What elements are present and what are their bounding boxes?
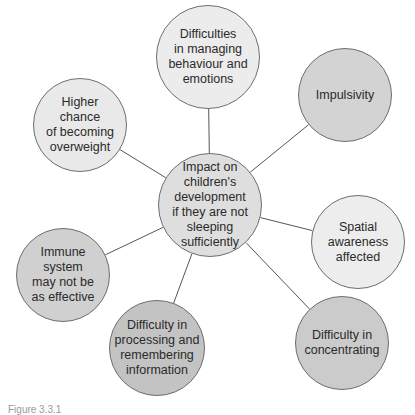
figure-caption: Figure 3.3.1 [8, 404, 61, 415]
connector-overweight [120, 150, 166, 178]
node-processing: Difficulty in processing and remembering… [109, 300, 205, 396]
connector-immune [105, 227, 163, 254]
node-spatial: Spatial awareness affected [311, 195, 405, 289]
node-overweight-label: Higher chance of becoming overweight [46, 95, 114, 155]
connector-behaviour [209, 109, 210, 153]
node-concentrating: Difficulty in concentrating [295, 296, 389, 390]
center-node: Impact on children's development if they… [158, 153, 262, 257]
center-node-label: Impact on children's development if they… [172, 160, 248, 250]
connector-impulsivity [250, 125, 308, 172]
connector-concentrating [246, 243, 310, 309]
node-immune: Immune system may not be as effective [16, 228, 110, 322]
node-overweight: Higher chance of becoming overweight [33, 78, 127, 172]
node-concentrating-label: Difficulty in concentrating [304, 328, 379, 358]
connector-spatial [260, 218, 312, 231]
node-behaviour: Difficulties in managing behaviour and e… [156, 5, 260, 109]
node-immune-label: Immune system may not be as effective [31, 245, 94, 305]
node-impulsivity: Impulsivity [298, 48, 392, 142]
node-behaviour-label: Difficulties in managing behaviour and e… [168, 27, 247, 87]
node-processing-label: Difficulty in processing and remembering… [115, 318, 200, 378]
node-impulsivity-label: Impulsivity [316, 88, 374, 103]
node-spatial-label: Spatial awareness affected [328, 220, 388, 265]
connector-processing [174, 254, 192, 303]
